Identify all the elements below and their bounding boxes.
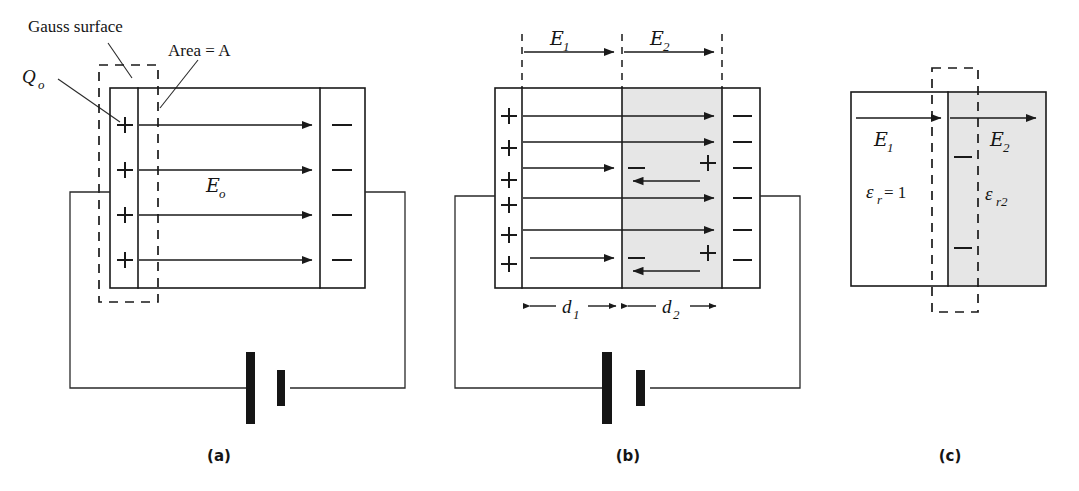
battery-b [602, 352, 645, 424]
svg-text:ε: ε [866, 181, 874, 202]
svg-text:E: E [873, 128, 888, 150]
right-plate-charges-a [332, 125, 352, 260]
svg-text:1: 1 [887, 140, 894, 155]
physics-diagram-svg: Gauss surface Area = A Q o E o (a) [0, 0, 1079, 491]
battery-short-plate-a [277, 370, 285, 406]
figure-root: Gauss surface Area = A Q o E o (a) [0, 0, 1079, 491]
svg-text:E: E [549, 27, 564, 49]
dielectric-slab-c [948, 93, 1046, 285]
svg-text:2: 2 [663, 39, 670, 54]
gauss-surface-leader [108, 43, 132, 78]
battery-a [246, 352, 285, 424]
svg-text:1: 1 [563, 39, 570, 54]
svg-text:E: E [989, 128, 1004, 150]
svg-text:2: 2 [1003, 140, 1010, 155]
svg-text:= 1: = 1 [884, 183, 906, 202]
panel-b: E 1 E 2 d 1 d 2 (b) [455, 27, 800, 465]
field1-label-b: E 1 [549, 27, 570, 54]
panel-caption-c: (c) [939, 447, 962, 465]
svg-text:r2: r2 [996, 194, 1008, 209]
svg-text:d: d [662, 296, 672, 317]
svg-text:ε: ε [985, 183, 993, 204]
area-label-a: Area = A [168, 41, 231, 60]
svg-text:E: E [649, 27, 664, 49]
area-label-leader [160, 60, 198, 108]
panel-a: Gauss surface Area = A Q o E o (a) [22, 17, 405, 465]
gauss-surface-box [99, 65, 158, 302]
svg-text:r: r [877, 192, 883, 207]
field-lines-a [139, 125, 312, 260]
left-plate-charges-a [117, 117, 133, 268]
gauss-surface-label-a: Gauss surface [28, 17, 123, 36]
panel-caption-a: (a) [207, 447, 231, 465]
battery-long-plate-b [602, 352, 612, 424]
svg-text:o: o [219, 186, 226, 201]
permittivity1-label-c: ε r = 1 [866, 181, 906, 207]
dimension1-label-b: d 1 [562, 296, 580, 322]
panel-c: E 1 E 2 ε r = 1 ε r2 (c) [851, 68, 1046, 465]
svg-text:2: 2 [673, 307, 680, 322]
svg-text:E: E [205, 174, 220, 196]
circuit-a [70, 192, 405, 388]
panel-caption-b: (b) [616, 447, 640, 465]
battery-long-plate-a [246, 352, 255, 424]
left-plate-charges-b [501, 108, 517, 272]
svg-text:1: 1 [573, 307, 580, 322]
charge-label-a: Q o [22, 66, 45, 92]
field1-label-c: E 1 [873, 128, 894, 155]
svg-text:o: o [38, 77, 45, 92]
svg-text:Q: Q [22, 66, 36, 87]
svg-text:d: d [562, 296, 572, 317]
right-plate-charges-b [733, 116, 752, 260]
dimension2-label-b: d 2 [662, 296, 680, 322]
field-label-a: E o [205, 174, 226, 201]
field2-label-b: E 2 [649, 27, 670, 54]
capacitor-body-a [110, 88, 365, 288]
battery-short-plate-b [636, 370, 645, 406]
